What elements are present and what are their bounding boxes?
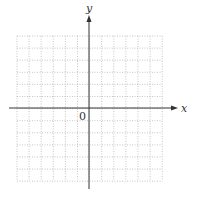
y-axis-arrow-icon (87, 15, 92, 22)
coordinate-plane: x y 0 (0, 0, 198, 202)
x-axis-label: x (181, 102, 188, 115)
axes (9, 15, 178, 189)
y-axis-label: y (85, 2, 93, 15)
x-axis-arrow-icon (171, 106, 178, 111)
grid-lines (17, 36, 162, 181)
origin-label: 0 (79, 110, 86, 123)
